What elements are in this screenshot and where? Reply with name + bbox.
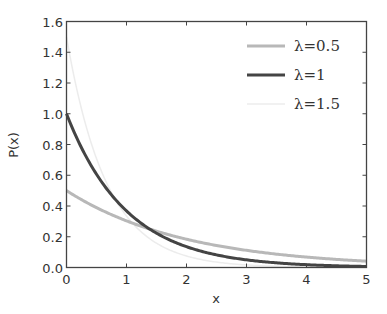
- legend-label: λ=0.5: [294, 37, 340, 55]
- legend: λ=0.5λ=1λ=1.5: [247, 37, 340, 113]
- x-tick-label: 5: [362, 272, 370, 287]
- x-tick-label: 0: [62, 272, 70, 287]
- y-tick-label: 0.2: [42, 230, 63, 245]
- x-tick-label: 1: [122, 272, 130, 287]
- y-axis-label: P(x): [6, 132, 21, 158]
- x-tick-label: 4: [302, 272, 310, 287]
- curve-lambda-0-5: [67, 191, 367, 262]
- legend-label: λ=1: [294, 66, 326, 84]
- y-tick-label: 0.4: [42, 199, 63, 214]
- y-tick-label: 0.0: [42, 261, 63, 276]
- legend-label: λ=1.5: [294, 95, 340, 113]
- y-tick-label: 0.6: [42, 168, 63, 183]
- y-tick-label: 1.2: [42, 76, 63, 91]
- x-axis-label: x: [212, 291, 220, 306]
- x-tick-label: 2: [182, 272, 190, 287]
- y-tick-label: 1.6: [42, 15, 63, 30]
- y-tick-label: 1.0: [42, 107, 63, 122]
- plot-frame: [67, 22, 367, 268]
- chart-canvas: 012345 0.00.20.40.60.81.01.21.41.6 x P(x…: [0, 0, 387, 314]
- y-tick-label: 1.4: [42, 45, 63, 60]
- x-tick-label: 3: [242, 272, 250, 287]
- y-tick-label: 0.8: [42, 138, 63, 153]
- x-axis-ticks: 012345: [62, 22, 370, 288]
- curve-lambda-1: [67, 114, 367, 267]
